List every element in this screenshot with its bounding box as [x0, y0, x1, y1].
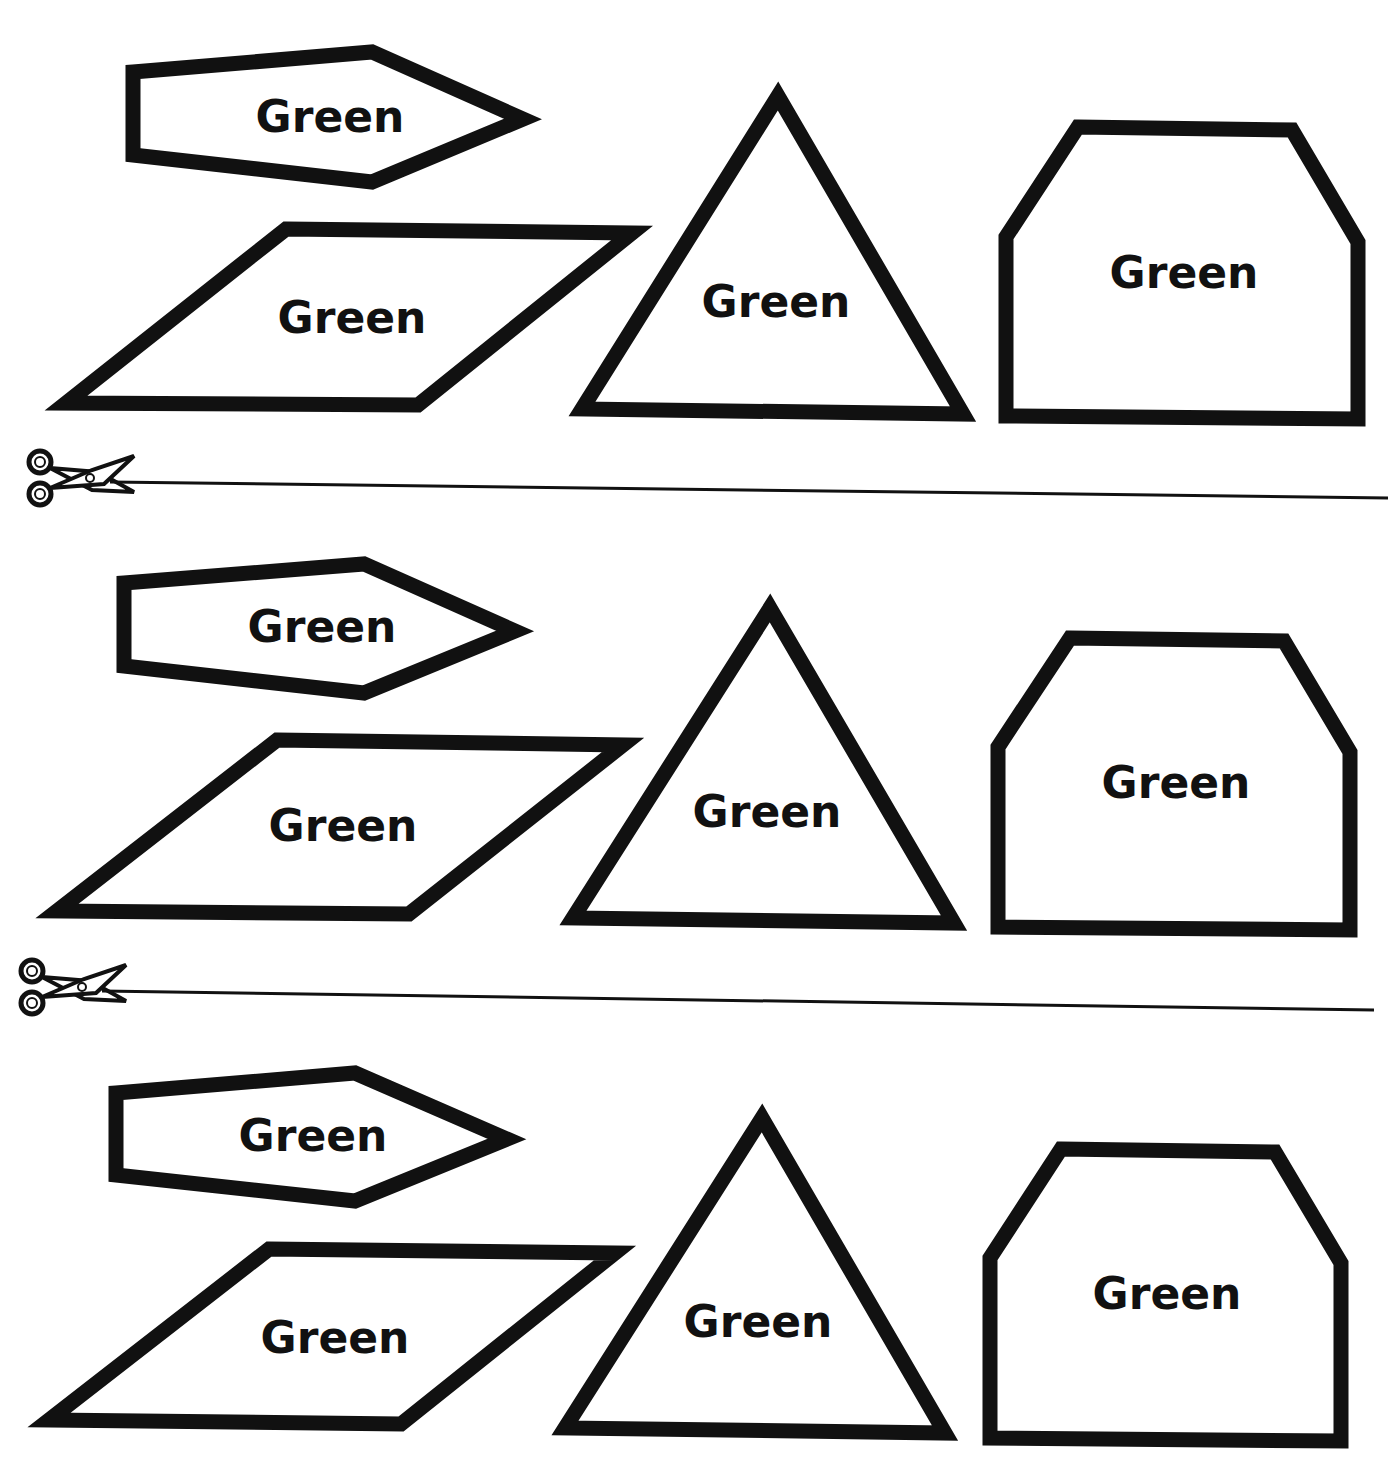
worksheet-page: Green Green Green Green Green Green — [0, 0, 1400, 1475]
shape-label: Green — [261, 1312, 410, 1363]
parallelogram-shape: Green — [49, 1249, 615, 1424]
hexagon-shape: Green — [998, 638, 1350, 930]
triangle-shape: Green — [573, 608, 954, 923]
pentagon-shape: Green — [124, 564, 515, 693]
pentagon-shape: Green — [133, 52, 523, 182]
cut-line-1 — [29, 451, 1388, 505]
triangle-shape: Green — [565, 1118, 945, 1433]
shape-label: Green — [693, 786, 842, 837]
shape-label: Green — [1102, 757, 1251, 808]
dashed-cut-line — [110, 482, 1388, 498]
shape-label: Green — [278, 292, 427, 343]
parallelogram-shape: Green — [57, 740, 623, 914]
scissors-icon — [21, 960, 126, 1014]
shape-label: Green — [248, 601, 397, 652]
shape-label: Green — [256, 91, 405, 142]
shape-label: Green — [269, 800, 418, 851]
cut-line-2 — [21, 960, 1374, 1014]
shape-label: Green — [1093, 1268, 1242, 1319]
shape-row-2: Green Green Green Green — [57, 564, 1350, 930]
shape-label: Green — [239, 1110, 388, 1161]
shape-label: Green — [702, 276, 851, 327]
shape-label: Green — [1110, 247, 1259, 298]
parallelogram-shape: Green — [66, 229, 632, 405]
shape-row-1: Green Green Green Green — [66, 52, 1358, 419]
pentagon-shape: Green — [116, 1073, 507, 1201]
hexagon-shape: Green — [1006, 127, 1358, 419]
dashed-cut-line — [102, 991, 1374, 1010]
triangle-shape: Green — [582, 96, 963, 414]
scissors-icon — [29, 451, 134, 505]
shape-label: Green — [684, 1296, 833, 1347]
hexagon-shape: Green — [990, 1149, 1341, 1441]
shape-row-3: Green Green Green Green — [49, 1073, 1341, 1441]
